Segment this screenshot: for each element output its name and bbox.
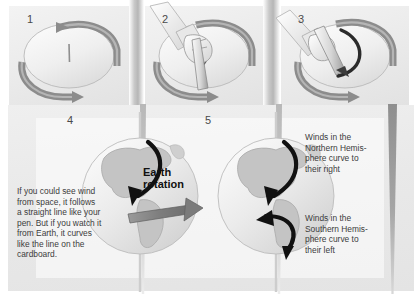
- panel-number-2: 2: [162, 13, 168, 25]
- earth-rotation-label: Earth rotation: [143, 166, 184, 190]
- coriolis-effect-figure: 1 2 3 4 5 If you could see wind from spa…: [0, 0, 419, 300]
- panel-divider-2: [263, 0, 280, 108]
- caption-northern-hemisphere: Winds in the Northern Hemis- phere curve…: [305, 132, 409, 174]
- caption-wind-explanation: If you could see wind from space, it fol…: [17, 186, 139, 260]
- panel-number-4: 4: [67, 114, 73, 126]
- top-panel-strip: [0, 0, 419, 108]
- panel-number-5: 5: [205, 114, 211, 126]
- panel-number-1: 1: [27, 13, 33, 25]
- panel-divider-1: [129, 0, 144, 108]
- caption-southern-hemisphere: Winds in the Southern Hemis- phere curve…: [305, 213, 409, 255]
- panel-number-3: 3: [298, 13, 304, 25]
